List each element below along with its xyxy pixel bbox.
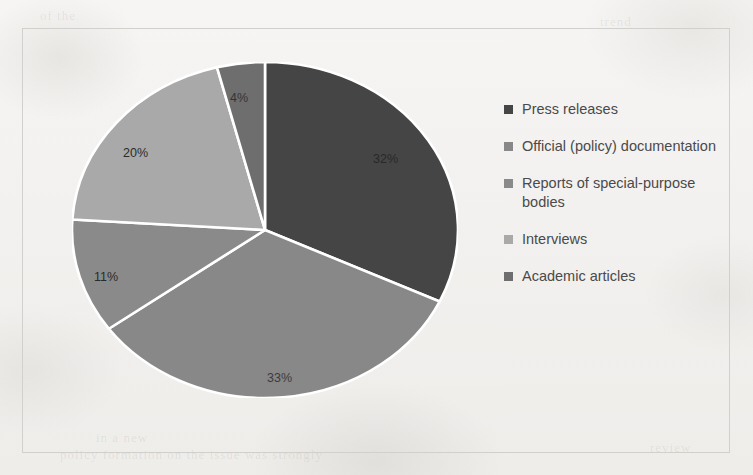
legend-item-label-0: Press releases xyxy=(522,100,618,119)
legend-swatch-icon-1 xyxy=(504,142,513,151)
legend-item-1[interactable]: Official (policy) documentation xyxy=(504,137,719,156)
legend-item-2[interactable]: Reports of special-purpose bodies xyxy=(504,174,719,212)
legend-item-label-4: Academic articles xyxy=(522,267,636,286)
legend-swatch-icon-2 xyxy=(504,179,513,188)
legend-item-4[interactable]: Academic articles xyxy=(504,267,719,286)
legend-item-3[interactable]: Interviews xyxy=(504,230,719,249)
ghost-text-0: of the xyxy=(40,8,76,24)
chart-page: of thetrendin a newpolicy formation on t… xyxy=(0,0,753,475)
legend-swatch-icon-0 xyxy=(504,105,513,114)
legend-item-label-3: Interviews xyxy=(522,230,587,249)
pie-slices-group xyxy=(72,62,458,398)
chart-legend: Press releasesOfficial (policy) document… xyxy=(504,100,719,304)
legend-item-label-1: Official (policy) documentation xyxy=(522,137,716,156)
pie-chart-graphic xyxy=(72,62,458,398)
legend-item-0[interactable]: Press releases xyxy=(504,100,719,119)
legend-swatch-icon-4 xyxy=(504,272,513,281)
legend-item-label-2: Reports of special-purpose bodies xyxy=(522,174,719,212)
legend-swatch-icon-3 xyxy=(504,235,513,244)
pie-chart-plot-area xyxy=(72,62,458,398)
